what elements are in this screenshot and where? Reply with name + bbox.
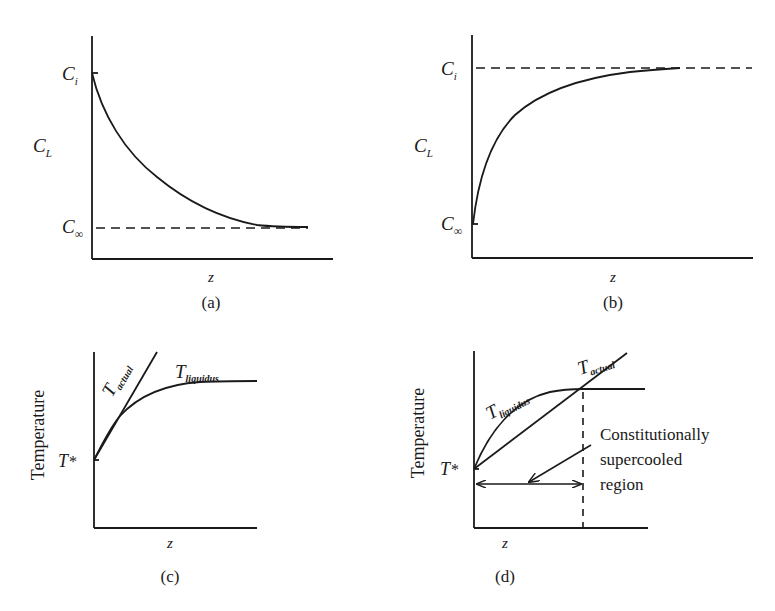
x-axis-label: z — [501, 535, 508, 551]
panel-caption: (d) — [495, 567, 515, 586]
y-axis-label: CL — [33, 135, 52, 159]
concentration-curve — [92, 73, 308, 227]
x-axis-label: z — [609, 269, 616, 285]
t-actual-label: Tactual — [97, 358, 135, 401]
tick-label-t-star: T* — [440, 459, 459, 479]
annotation-pointer-arrow — [529, 445, 591, 482]
panel-caption: (c) — [161, 567, 180, 586]
tick-label-ci: Ci — [62, 63, 78, 87]
panel-caption: (b) — [603, 293, 623, 312]
tick-label-t-star: T* — [58, 451, 77, 471]
panel-b: Ci CL C∞ z (b) — [414, 35, 753, 312]
x-axis-label: z — [166, 535, 173, 551]
tick-label-c-inf: C∞ — [62, 216, 83, 241]
y-axis-label: CL — [414, 135, 433, 159]
x-axis-label: z — [207, 269, 214, 285]
y-axis-label: Temperature — [408, 388, 428, 479]
t-actual-label: Tactual — [575, 348, 617, 381]
panel-c: Temperature T* Tactual Tliquidus z (c) — [28, 352, 257, 586]
t-liquidus-label: Tliquidus — [482, 384, 532, 425]
tick-label-c-inf: C∞ — [441, 213, 462, 238]
panel-d: Temperature T* Tliquidus Tactual Constit… — [408, 348, 714, 586]
concentration-curve — [473, 68, 680, 224]
panel-a: Ci CL C∞ z (a) — [33, 36, 333, 312]
panel-caption: (a) — [202, 293, 221, 312]
figure: Ci CL C∞ z (a) Ci CL C∞ z (b) — [0, 0, 775, 611]
annotation-text: Constitutionally supercooled region — [600, 425, 714, 494]
y-axis-label: Temperature — [28, 390, 48, 481]
tick-label-ci: Ci — [441, 58, 457, 82]
t-liquidus-label: Tliquidus — [175, 361, 219, 384]
